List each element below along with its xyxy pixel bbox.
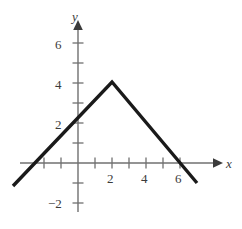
y-tick-label-minus-2: −2 <box>48 197 62 210</box>
y-axis-label: y <box>72 10 78 23</box>
graph-figure: 6 4 2 −2 2 4 6 x y <box>0 0 242 229</box>
y-tick-label-6: 6 <box>55 38 62 51</box>
curve-path <box>13 82 197 186</box>
y-tick-label-2: 2 <box>55 118 62 131</box>
x-tick-label-6: 6 <box>175 172 182 185</box>
x-tick-label-4: 4 <box>141 172 148 185</box>
coordinate-plot <box>0 0 242 229</box>
y-tick-label-4: 4 <box>55 78 62 91</box>
x-tick-label-2: 2 <box>107 172 114 185</box>
x-axis-label: x <box>226 157 232 170</box>
x-axis-arrow-icon <box>213 158 223 168</box>
